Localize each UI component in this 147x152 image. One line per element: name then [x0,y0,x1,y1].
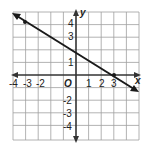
y-tick-label: 1 [68,57,74,68]
y-tick-label: -4 [63,121,72,132]
y-tick-label: -3 [63,108,72,119]
x-tick-label: 3 [111,78,117,89]
x-tick-label: -2 [36,78,45,89]
x-tick-label: 1 [86,78,92,89]
x-tick-label: -4 [9,78,18,89]
x-axis-label: x [134,75,141,86]
coordinate-plane: y x O -4 -3 -2 1 2 3 4 3 1 -2 -3 -4 [0,0,147,152]
x-tick-label: -3 [23,78,32,89]
line-point-x-intercept [112,73,116,77]
y-axis-down-arrow-icon [73,136,79,143]
y-tick-label: 3 [68,31,74,42]
origin-label: O [64,78,72,89]
y-axis-label: y [79,7,86,18]
y-tick-label: 4 [68,18,74,29]
y-axis-up-arrow-icon [73,9,79,16]
y-axis [73,9,79,143]
line-point-upper [23,20,27,24]
x-tick-label: 2 [99,78,105,89]
y-tick-label: -2 [63,95,72,106]
